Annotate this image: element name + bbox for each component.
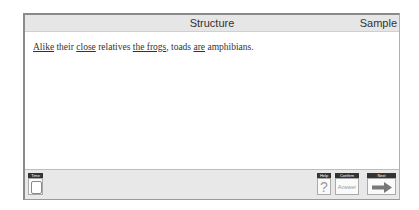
answer-option-b[interactable]: close bbox=[76, 42, 96, 52]
help-button[interactable]: Help ? bbox=[317, 173, 331, 195]
next-button[interactable]: Next bbox=[367, 173, 396, 195]
answer-option-a[interactable]: Alike bbox=[33, 42, 54, 52]
header-bar: Structure Sample bbox=[25, 15, 399, 32]
sentence-text: relatives bbox=[96, 42, 133, 52]
footer-toolbar: Time Help ? Confirm Answer Next bbox=[25, 169, 399, 199]
answer-option-d[interactable]: are bbox=[193, 42, 205, 52]
confirm-answer-button[interactable]: Confirm Answer bbox=[335, 173, 359, 195]
clock-icon bbox=[31, 181, 42, 194]
sentence-text: their bbox=[54, 42, 76, 52]
time-button[interactable]: Time bbox=[28, 173, 43, 195]
test-window: Structure Sample Alike their close relat… bbox=[23, 13, 400, 200]
sentence-text: amphibians. bbox=[205, 42, 254, 52]
answer-option-c[interactable]: the frogs bbox=[133, 42, 167, 52]
sentence-text: , toads bbox=[166, 42, 193, 52]
confirm-answer-text: Answer bbox=[336, 179, 358, 195]
arrow-right-icon bbox=[372, 182, 392, 193]
section-title: Structure bbox=[25, 16, 399, 30]
question-icon: ? bbox=[318, 179, 330, 195]
question-sentence: Alike their close relatives the frogs, t… bbox=[33, 42, 254, 52]
mode-label: Sample bbox=[360, 16, 397, 30]
